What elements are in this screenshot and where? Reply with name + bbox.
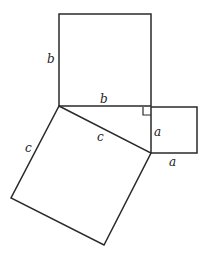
label-square-c-side: c	[25, 141, 32, 155]
label-hypotenuse: c	[97, 130, 104, 144]
label-square-a-side: a	[169, 155, 176, 169]
square-c	[11, 106, 151, 245]
label-leg-b: b	[100, 92, 108, 106]
pythagorean-diagram: b b a a c c	[0, 0, 209, 258]
right-angle-marker-icon	[143, 107, 151, 115]
label-square-b-side: b	[47, 52, 55, 66]
label-leg-a: a	[154, 125, 161, 139]
